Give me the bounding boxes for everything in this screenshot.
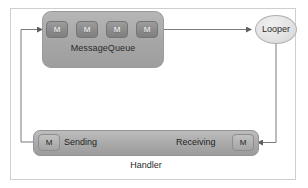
queue-message-box-4[interactable]: M — [136, 21, 158, 38]
diagram-canvas: MessageQueue M M M M Looper M Sending Re… — [0, 0, 308, 188]
sending-label: Sending — [64, 137, 97, 147]
queue-message-box-1[interactable]: M — [46, 21, 68, 38]
receiving-label: Receiving — [176, 137, 216, 147]
handler-sending-message-box[interactable]: M — [38, 134, 60, 151]
message-queue-label: MessageQueue — [42, 43, 164, 53]
looper-label: Looper — [255, 24, 297, 34]
queue-message-box-2[interactable]: M — [76, 21, 98, 38]
queue-message-box-3[interactable]: M — [106, 21, 128, 38]
message-queue-panel — [42, 11, 164, 68]
handler-label: Handler — [33, 160, 259, 170]
handler-receiving-message-box[interactable]: M — [232, 134, 254, 151]
